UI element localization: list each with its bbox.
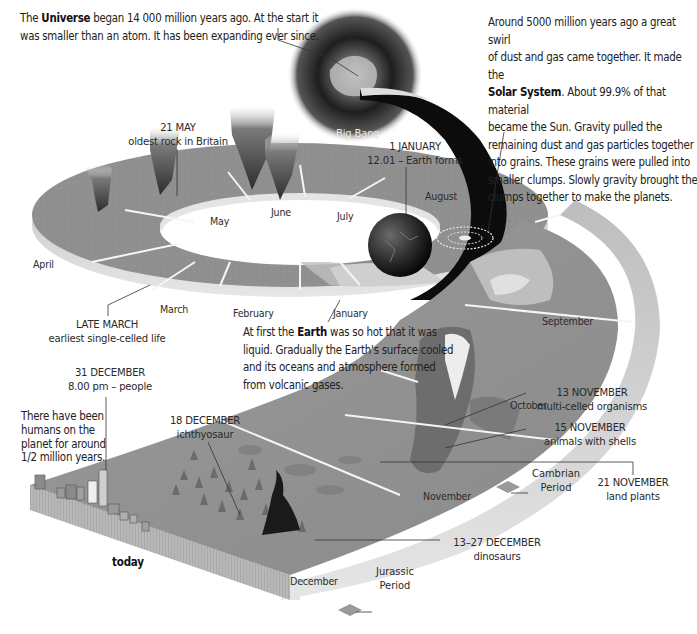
solar-text: smaller clumps. Slowly gravity brought t… [488, 173, 697, 187]
humans-paragraph: There have been humans on the planet for… [21, 410, 121, 465]
month-march: March [160, 303, 188, 315]
event-date: 15 NOVEMBER [535, 421, 645, 435]
solar-text: clumps together to make the planets. [488, 190, 672, 204]
solar-text: Around 5000 million years ago a great sw… [488, 15, 676, 47]
event-description: ichthyosaur [160, 428, 250, 442]
humans-text: 1/2 million years. [21, 450, 105, 464]
jurassic-marker [338, 604, 362, 616]
earth-text: and its oceans and atmosphere formed [243, 360, 436, 374]
solar-system-paragraph: Around 5000 million years ago a great sw… [488, 14, 697, 207]
month-december: December [290, 575, 338, 587]
solar-system-term: Solar System [488, 85, 561, 99]
earth-sphere [368, 213, 432, 277]
period-name: Jurassic [376, 565, 414, 579]
event-date: 21 MAY [118, 121, 238, 135]
event-date: 21 NOVEMBER [583, 476, 683, 490]
month-april: April [33, 258, 54, 270]
solar-text: into grains. These grains were pulled in… [488, 155, 690, 169]
period-name: Cambrian [532, 467, 580, 481]
month-august: August [425, 190, 457, 202]
period-word: Period [532, 481, 580, 495]
event-description: earliest single-celled life [42, 332, 172, 346]
event-date: 13–27 DECEMBER [442, 536, 552, 550]
month-october: October [510, 399, 547, 411]
earth-text: was so hot that it was [327, 325, 437, 339]
earth-text: from volcanic gases. [243, 378, 343, 392]
month-may: May [210, 215, 229, 227]
month-june: June [271, 206, 291, 218]
month-july: July [337, 210, 353, 222]
event-description: 8.00 pm – people [60, 380, 160, 394]
event-ichthyosaur: 18 DECEMBER ichthyosaur [160, 414, 250, 442]
month-january: January [333, 307, 368, 319]
cambrian-period-label: Cambrian Period [532, 467, 580, 495]
event-date: 1 JANUARY [365, 140, 465, 154]
humans-text: planet for around [21, 437, 106, 451]
event-description: animals with shells [535, 435, 645, 449]
event-single-celled: LATE MARCH earliest single-celled life [42, 318, 172, 346]
solar-text: of dust and gas came together. It made t… [488, 50, 682, 82]
period-word: Period [376, 579, 414, 593]
event-description: oldest rock in Britain [118, 135, 238, 149]
event-earth-forms: 1 JANUARY 12.01 – Earth forms [365, 140, 465, 168]
universe-term: Universe [41, 11, 90, 25]
event-date: 18 DECEMBER [160, 414, 250, 428]
month-september: September [542, 315, 593, 327]
month-november: November [423, 490, 471, 502]
universe-text: was smaller than an atom. It has been ex… [20, 29, 319, 43]
jurassic-period-label: Jurassic Period [376, 565, 414, 593]
humans-text: There have been [21, 409, 104, 423]
earth-term: Earth [297, 325, 327, 339]
solar-text: remaining dust and gas particles togethe… [488, 138, 694, 152]
event-shells: 15 NOVEMBER animals with shells [535, 421, 645, 449]
earth-paragraph: At first the Earth was so hot that it wa… [243, 324, 473, 394]
big-bang-label: Big Bang [336, 127, 380, 141]
event-description: 12.01 – Earth forms [365, 154, 465, 168]
event-date: 31 DECEMBER [60, 366, 160, 380]
event-people: 31 DECEMBER 8.00 pm – people [60, 366, 160, 394]
humans-text: humans on the [21, 423, 95, 437]
universe-paragraph: The Universe began 14 000 million years … [20, 10, 350, 45]
earth-text: At first the [243, 325, 297, 339]
solar-text: became the Sun. Gravity pulled the [488, 120, 662, 134]
universe-text: began 14 000 million years ago. At the s… [90, 11, 318, 25]
month-february: February [233, 307, 274, 319]
event-date: 13 NOVEMBER [527, 386, 657, 400]
universe-text: The [20, 11, 41, 25]
earth-calendar-infographic: The Universe began 14 000 million years … [0, 0, 697, 634]
event-description: land plants [583, 490, 683, 504]
today-label: today [112, 555, 144, 569]
event-description: dinosaurs [442, 550, 552, 564]
event-land-plants: 21 NOVEMBER land plants [583, 476, 683, 504]
earth-text: liquid. Gradually the Earth's surface co… [243, 343, 453, 357]
event-oldest-rock: 21 MAY oldest rock in Britain [118, 121, 238, 149]
event-dinosaurs: 13–27 DECEMBER dinosaurs [442, 536, 552, 564]
event-date: LATE MARCH [42, 318, 172, 332]
